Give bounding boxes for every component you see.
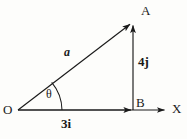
- point-label-o: O: [3, 103, 12, 116]
- x-axis-label: X: [172, 102, 181, 115]
- point-label-a: A: [141, 4, 150, 17]
- resultant-vector: [18, 24, 130, 110]
- angle-arc: [52, 82, 62, 110]
- horizontal-component-label: 3i: [61, 117, 71, 130]
- vector-diagram-canvas: [0, 0, 187, 139]
- angle-label-theta: θ: [46, 88, 52, 100]
- vector-diagram-figure: A O B X a 4j 3i θ: [0, 0, 187, 139]
- vertical-component-label: 4j: [138, 55, 149, 68]
- resultant-vector-label: a: [64, 46, 70, 58]
- point-label-b: B: [136, 96, 145, 109]
